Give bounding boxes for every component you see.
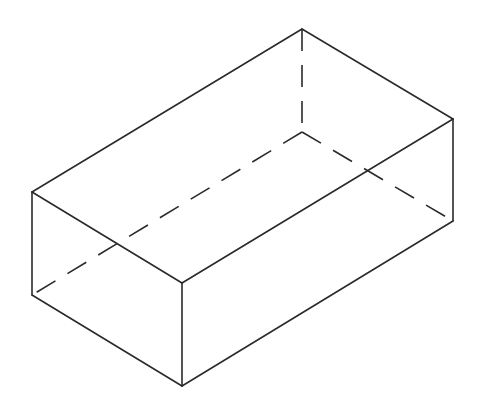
hidden-edge-bottom-back-hidden-to-bottom-right [302, 132, 453, 221]
edge-top-back-to-top-right [302, 29, 453, 119]
hidden-edge-bottom-back-hidden-to-bottom-left [32, 132, 302, 295]
visible-edges [32, 29, 453, 386]
hidden-edges [32, 29, 453, 295]
cuboid-svg [0, 0, 477, 407]
edge-bottom-front-to-bottom-right [182, 221, 453, 386]
edge-top-back-to-top-left [32, 29, 302, 192]
edge-bottom-left-to-bottom-front [32, 295, 182, 386]
cuboid-diagram [0, 0, 477, 407]
edge-top-front-to-top-right [182, 119, 453, 283]
edge-top-left-to-top-front [32, 192, 182, 283]
